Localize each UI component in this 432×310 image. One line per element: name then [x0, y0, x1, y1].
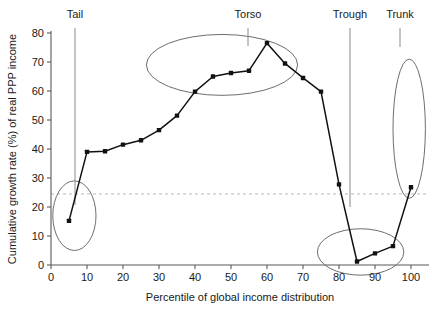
- data-point: [301, 76, 305, 80]
- y-tick-label: 10: [32, 230, 44, 242]
- x-tick-label: 60: [261, 271, 273, 283]
- data-point: [175, 113, 179, 117]
- region-label-trough: Trough: [333, 8, 367, 20]
- y-tick-label: 0: [38, 259, 44, 271]
- region-label-tail: Tail: [67, 8, 84, 20]
- data-point: [67, 219, 71, 223]
- chart-background: [0, 0, 432, 310]
- data-point: [193, 89, 197, 93]
- y-tick-label: 70: [32, 56, 44, 68]
- data-point: [283, 61, 287, 65]
- x-tick-label: 50: [225, 271, 237, 283]
- x-tick-label: 0: [48, 271, 54, 283]
- x-tick-label: 80: [333, 271, 345, 283]
- elephant-curve-chart: 010203040506070800102030405060708090100 …: [0, 0, 432, 310]
- y-tick-label: 20: [32, 201, 44, 213]
- data-point: [157, 128, 161, 132]
- data-point: [337, 182, 341, 186]
- y-tick-label: 40: [32, 143, 44, 155]
- data-point: [319, 89, 323, 93]
- data-point: [409, 185, 413, 189]
- region-label-trunk: Trunk: [386, 8, 414, 20]
- x-axis-title: Percentile of global income distribution: [146, 291, 334, 303]
- x-tick-label: 100: [402, 271, 420, 283]
- y-tick-label: 80: [32, 27, 44, 39]
- data-point: [139, 138, 143, 142]
- y-tick-label: 50: [32, 114, 44, 126]
- x-tick-label: 30: [153, 271, 165, 283]
- x-tick-label: 20: [117, 271, 129, 283]
- x-tick-label: 70: [297, 271, 309, 283]
- data-point: [211, 74, 215, 78]
- y-tick-label: 60: [32, 85, 44, 97]
- data-point: [229, 71, 233, 75]
- x-tick-label: 90: [369, 271, 381, 283]
- data-point: [121, 142, 125, 146]
- data-point: [355, 259, 359, 263]
- data-point: [103, 149, 107, 153]
- y-tick-label: 30: [32, 172, 44, 184]
- data-point: [85, 150, 89, 154]
- y-axis-title: Cumulative growth rate (%) of real PPP i…: [6, 34, 18, 264]
- data-point: [247, 69, 251, 73]
- region-label-torso: Torso: [235, 8, 262, 20]
- data-point: [265, 41, 269, 45]
- data-point: [391, 244, 395, 248]
- data-point: [373, 251, 377, 255]
- chart-figure: 010203040506070800102030405060708090100 …: [0, 0, 432, 310]
- x-tick-label: 40: [189, 271, 201, 283]
- x-tick-label: 10: [81, 271, 93, 283]
